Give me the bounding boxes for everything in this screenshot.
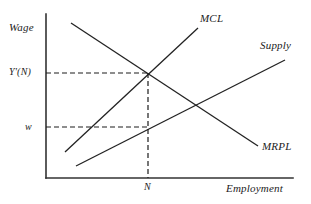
tick-label-employment: N — [144, 182, 151, 192]
curve-mrpl — [71, 23, 258, 146]
tick-label-wage-paid: w — [25, 122, 32, 132]
curve-mcl — [65, 28, 198, 152]
curve-label-supply: Supply — [260, 40, 291, 51]
curve-label-mcl: MCL — [200, 13, 223, 24]
x-axis-label: Employment — [226, 183, 283, 194]
monopsony-labor-market-diagram: Wage Employment MCL Supply MRPL Y'(N) w … — [0, 0, 311, 204]
curve-label-mrpl: MRPL — [262, 141, 292, 152]
tick-label-wage-level: Y'(N) — [9, 67, 31, 77]
y-axis-label: Wage — [9, 22, 34, 33]
diagram-canvas — [0, 0, 311, 204]
